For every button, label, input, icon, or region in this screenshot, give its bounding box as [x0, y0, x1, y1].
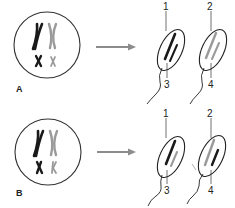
gamete-b-2: 2 4 — [187, 108, 231, 204]
cell-membrane — [15, 119, 81, 185]
label-1: 1 — [163, 1, 169, 12]
chromosome-gray — [212, 43, 219, 59]
gamete-b-1: 1 3 — [148, 108, 190, 206]
large-chromosome-black — [34, 131, 43, 156]
flagellum — [187, 174, 203, 204]
large-chromosome-gray — [49, 24, 56, 48]
flagellum — [190, 68, 204, 104]
small-chromosome-black — [36, 56, 41, 66]
panel-b: B 1 3 2 4 — [15, 108, 231, 206]
label-4: 4 — [208, 79, 214, 90]
label-1: 1 — [163, 108, 169, 119]
independent-assortment-diagram: A 1 3 2 4 — [0, 0, 235, 208]
panel-label-a: A — [16, 84, 23, 94]
panel-label-b: B — [16, 188, 23, 198]
mother-cell-b — [15, 119, 81, 185]
label-3: 3 — [164, 79, 170, 90]
label-2: 2 — [207, 108, 213, 119]
gamete-a-1: 1 3 — [147, 1, 190, 104]
chromosome-black — [170, 45, 177, 61]
large-chromosome-gray — [50, 131, 57, 155]
tail-fragment — [192, 164, 196, 170]
gamete-a-2: 2 4 — [190, 1, 232, 104]
small-chromosome-black — [37, 162, 42, 173]
cell-membrane — [14, 12, 80, 78]
arrow-b — [97, 149, 136, 156]
panel-a: A 1 3 2 4 — [14, 1, 232, 104]
label-4: 4 — [208, 185, 214, 196]
chromosome-gray — [171, 152, 177, 166]
chromosome-black — [212, 150, 218, 165]
mother-cell-a — [14, 12, 80, 78]
flagellum — [148, 175, 162, 206]
label-3: 3 — [164, 185, 170, 196]
flagellum — [147, 68, 162, 104]
arrow-a — [96, 44, 136, 51]
small-chromosome-gray — [51, 57, 55, 66]
large-chromosome-black — [33, 24, 42, 49]
small-chromosome-gray — [52, 162, 56, 173]
label-2: 2 — [207, 1, 213, 12]
